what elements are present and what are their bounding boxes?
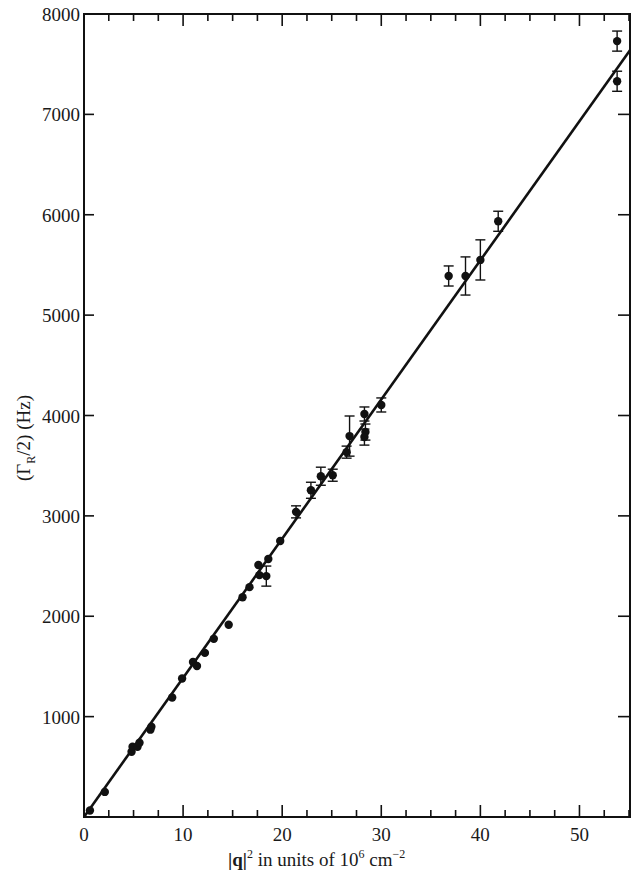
data-point <box>254 561 262 569</box>
filled-circle-marker <box>360 410 368 418</box>
filled-circle-marker <box>86 806 94 814</box>
y-tick-label: 7000 <box>42 104 80 125</box>
data-point <box>201 649 209 657</box>
filled-circle-marker <box>360 433 368 441</box>
filled-circle-marker <box>178 674 186 682</box>
filled-circle-marker <box>292 508 300 516</box>
filled-circle-marker <box>193 662 201 670</box>
data-point <box>475 240 485 280</box>
data-point <box>135 739 143 747</box>
filled-circle-marker <box>329 471 337 479</box>
filled-circle-marker <box>377 401 385 409</box>
data-point <box>193 662 201 670</box>
y-tick-label: 8000 <box>42 4 80 25</box>
data-point <box>224 621 232 629</box>
plot-frame <box>84 14 630 817</box>
filled-circle-marker <box>262 572 270 580</box>
data-point <box>264 555 272 563</box>
filled-circle-marker <box>461 272 469 280</box>
regression-line <box>84 50 630 817</box>
filled-circle-marker <box>613 37 621 45</box>
filled-circle-marker <box>201 649 209 657</box>
filled-circle-marker <box>101 788 109 796</box>
data-point <box>168 693 176 701</box>
x-tick-label: 10 <box>174 824 193 845</box>
filled-circle-marker <box>168 693 176 701</box>
filled-circle-marker <box>147 722 155 730</box>
data-point <box>238 593 246 601</box>
filled-circle-marker <box>494 217 502 225</box>
filled-circle-marker <box>476 256 484 264</box>
data-point <box>612 31 622 51</box>
x-tick-label: 50 <box>570 824 589 845</box>
filled-circle-marker <box>238 593 246 601</box>
x-tick-label: 40 <box>471 824 490 845</box>
data-point <box>245 583 253 591</box>
y-tick-label: 3000 <box>42 506 80 527</box>
plot-border <box>84 14 630 817</box>
data-point <box>210 635 218 643</box>
filled-circle-marker <box>254 561 262 569</box>
filled-circle-marker <box>276 537 284 545</box>
filled-circle-marker <box>224 621 232 629</box>
data-point <box>306 482 316 498</box>
x-tick-label: 20 <box>273 824 292 845</box>
filled-circle-marker <box>444 272 452 280</box>
filled-circle-marker <box>245 583 253 591</box>
data-point <box>101 788 109 796</box>
filled-circle-marker <box>135 739 143 747</box>
x-tick-label: 0 <box>79 824 89 845</box>
x-axis-label: |q|2 in units of 106 cm−2 <box>228 847 405 870</box>
filled-circle-marker <box>613 77 621 85</box>
filled-circle-marker <box>264 555 272 563</box>
y-tick-label: 1000 <box>42 707 80 728</box>
data-point <box>147 722 155 730</box>
data-point <box>376 398 386 412</box>
y-axis-label: (ΓR/2) (Hz) <box>13 395 38 481</box>
y-tick-label: 2000 <box>42 606 80 627</box>
x-axis-ticks: 01020304050 <box>79 14 629 845</box>
data-point <box>276 537 284 545</box>
data-point <box>261 566 271 586</box>
data-point <box>86 806 94 814</box>
y-tick-label: 6000 <box>42 205 80 226</box>
data-point <box>178 674 186 682</box>
filled-circle-marker <box>210 635 218 643</box>
filled-circle-marker <box>345 432 353 440</box>
data-point <box>316 467 326 485</box>
y-axis-ticks: 10002000300040005000600070008000 <box>42 4 630 728</box>
x-tick-label: 30 <box>372 824 391 845</box>
data-points <box>86 31 622 815</box>
filled-circle-marker <box>317 472 325 480</box>
y-tick-label: 4000 <box>42 406 80 427</box>
fit-line <box>84 50 630 817</box>
filled-circle-marker <box>307 486 315 494</box>
y-tick-label: 5000 <box>42 305 80 326</box>
data-point <box>461 257 471 295</box>
scatter-chart: 01020304050 1000200030004000500060007000… <box>0 0 644 878</box>
data-point <box>444 266 454 286</box>
